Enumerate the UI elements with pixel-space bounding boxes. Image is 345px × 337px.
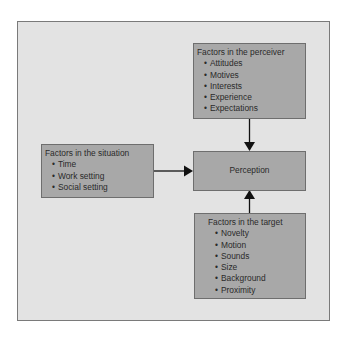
- target-list: Novelty Motion Sounds Size Background Pr…: [195, 228, 305, 296]
- list-item: Background: [215, 273, 305, 284]
- list-item: Novelty: [215, 228, 305, 239]
- list-item: Time: [52, 159, 153, 170]
- list-item: Motives: [204, 70, 305, 81]
- perceiver-list: Attitudes Motives Interests Experience E…: [194, 58, 305, 114]
- list-item: Work setting: [52, 171, 153, 182]
- situation-title: Factors in the situation: [42, 148, 153, 159]
- perception-box: Perception: [193, 151, 306, 191]
- target-title: Factors in the target: [195, 217, 305, 228]
- perception-label: Perception: [229, 165, 269, 176]
- list-item: Social setting: [52, 182, 153, 193]
- situation-list: Time Work setting Social setting: [42, 159, 153, 193]
- list-item: Size: [215, 262, 305, 273]
- perceiver-factors-box: Factors in the perceiver Attitudes Motiv…: [193, 43, 306, 119]
- list-item: Sounds: [215, 251, 305, 262]
- list-item: Expectations: [204, 103, 305, 114]
- list-item: Interests: [204, 81, 305, 92]
- situation-factors-box: Factors in the situation Time Work setti…: [41, 144, 154, 198]
- list-item: Attitudes: [204, 58, 305, 69]
- list-item: Proximity: [215, 285, 305, 296]
- list-item: Experience: [204, 92, 305, 103]
- list-item: Motion: [215, 240, 305, 251]
- perceiver-title: Factors in the perceiver: [194, 47, 305, 58]
- target-factors-box: Factors in the target Novelty Motion Sou…: [194, 213, 306, 299]
